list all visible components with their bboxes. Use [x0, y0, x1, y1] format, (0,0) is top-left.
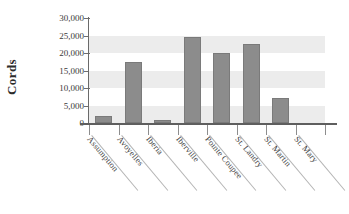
bar [213, 53, 230, 123]
category-label-leader-line [239, 135, 286, 191]
grid-band [89, 36, 325, 54]
y-axis-tick-label: 15,000 [26, 66, 84, 75]
category-label-leader-line [298, 135, 345, 191]
category-tick [237, 125, 238, 135]
y-axis-title-label: Cords [4, 59, 20, 95]
category-tick [89, 125, 90, 135]
y-axis-tick-label: 5,000 [26, 101, 84, 110]
category-label: St. Landry [233, 134, 265, 169]
category-tick [148, 125, 149, 135]
category-label-leader-line [180, 135, 227, 191]
category-tick [266, 125, 267, 135]
category-label: St. Martin [262, 134, 293, 168]
category-label: Avoyelles [115, 134, 146, 168]
y-axis-title: Cords [2, 44, 22, 110]
y-axis-tick-label: 20,000 [26, 49, 84, 58]
bar [95, 116, 112, 123]
category-tick [325, 125, 326, 135]
y-axis-tick-labels: 30,00025,00020,00015,00010,0005,0000 [26, 14, 84, 130]
category-label: St. Mary [292, 134, 320, 164]
category-tick [296, 125, 297, 135]
y-axis-tick-label: 30,000 [26, 14, 84, 23]
bar-chart-figure: Cords 30,00025,00020,00015,00010,0005,00… [0, 0, 349, 214]
category-tick [178, 125, 179, 135]
bar [125, 62, 142, 123]
y-axis-tick-label: 0 [26, 119, 84, 128]
category-tick [207, 125, 208, 135]
bar [243, 44, 260, 123]
bar [184, 37, 201, 123]
bar [272, 98, 289, 123]
y-axis-tick-label: 10,000 [26, 84, 84, 93]
y-axis-tick-label: 25,000 [26, 31, 84, 40]
y-axis-line [88, 17, 89, 124]
category-label-leader-line [121, 135, 168, 191]
category-tick [119, 125, 120, 135]
plot-area [89, 18, 325, 123]
category-label: Iberville [174, 134, 201, 164]
category-label: Iberia [144, 134, 165, 157]
